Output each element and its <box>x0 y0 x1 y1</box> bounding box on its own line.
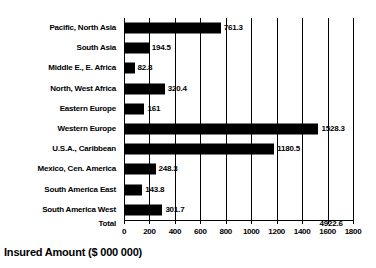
category-label: U.S.A., Caribbean <box>52 139 116 159</box>
bar-row: 82.8 <box>124 58 353 78</box>
bar-rows: 761.3194.582.8320.41611528.31180.5248.31… <box>124 18 353 220</box>
bar-value-label: 161 <box>147 105 160 113</box>
category-label: South America West <box>42 200 116 220</box>
bar <box>124 164 156 175</box>
category-label: South America East <box>44 180 116 200</box>
bar-row: 320.4 <box>124 79 353 99</box>
category-label: Mexico, Cen. America <box>38 159 116 179</box>
tick-mark-1000 <box>251 220 252 224</box>
bar-row: 248.3 <box>124 159 353 179</box>
tick-label-1800: 1800 <box>345 228 362 236</box>
total-row-label: Total <box>0 219 120 228</box>
tick-label-600: 600 <box>194 228 206 236</box>
tick-label-1200: 1200 <box>268 228 285 236</box>
bar <box>124 124 318 135</box>
tick-label-1400: 1400 <box>294 228 311 236</box>
bar-row: 161 <box>124 99 353 119</box>
tick-mark-1200 <box>277 220 278 224</box>
bar-row: 1180.5 <box>124 139 353 159</box>
bar-value-label: 194.5 <box>152 44 171 52</box>
category-label: South Asia <box>77 38 117 58</box>
bar-value-label: 82.8 <box>138 64 153 72</box>
tick-mark-400 <box>175 220 176 224</box>
bar <box>124 144 274 155</box>
bar-value-label: 1180.5 <box>277 145 300 153</box>
bar <box>124 83 165 94</box>
tick-mark-1800 <box>353 220 354 224</box>
bar <box>124 184 142 195</box>
tick-label-1600: 1600 <box>319 228 336 236</box>
bar-value-label: 1528.3 <box>321 125 344 133</box>
bar <box>124 204 162 215</box>
tick-label-0: 0 <box>122 228 126 236</box>
bar-row: 301.7 <box>124 200 353 220</box>
x-axis-line <box>124 220 353 221</box>
category-label: Western Europe <box>58 119 116 139</box>
bar-value-label: 761.3 <box>224 24 243 32</box>
bar-value-label: 143.8 <box>145 186 164 194</box>
tick-mark-1400 <box>302 220 303 224</box>
bar-row: 143.8 <box>124 180 353 200</box>
bar <box>124 63 135 74</box>
plot-area: 761.3194.582.8320.41611528.31180.5248.31… <box>124 18 353 220</box>
category-label: Pacific, North Asia <box>49 18 116 38</box>
category-label: Middle E., E. Africa <box>48 58 116 78</box>
bar-row: 761.3 <box>124 18 353 38</box>
tick-mark-0 <box>124 220 125 224</box>
tick-label-1000: 1000 <box>243 228 260 236</box>
tick-mark-1600 <box>328 220 329 224</box>
bar-value-label: 248.3 <box>159 165 178 173</box>
bar <box>124 103 144 114</box>
bar-row: 1528.3 <box>124 119 353 139</box>
tick-mark-800 <box>226 220 227 224</box>
category-label: Eastern Europe <box>60 99 116 119</box>
tick-mark-600 <box>200 220 201 224</box>
tick-label-800: 800 <box>220 228 232 236</box>
bar <box>124 43 149 54</box>
bar-value-label: 320.4 <box>168 85 187 93</box>
category-label: North, West Africa <box>50 79 116 99</box>
category-axis-labels: Pacific, North AsiaSouth AsiaMiddle E., … <box>0 18 120 220</box>
tick-label-200: 200 <box>143 228 155 236</box>
bar-chart: Pacific, North AsiaSouth AsiaMiddle E., … <box>0 0 376 268</box>
tick-label-400: 400 <box>169 228 181 236</box>
gridline-1800 <box>353 18 354 220</box>
bar-row: 194.5 <box>124 38 353 58</box>
bar-value-label: 301.7 <box>165 206 184 214</box>
bar <box>124 23 221 34</box>
tick-mark-200 <box>149 220 150 224</box>
x-axis-title: Insured Amount ($ 000 000) <box>4 246 142 258</box>
